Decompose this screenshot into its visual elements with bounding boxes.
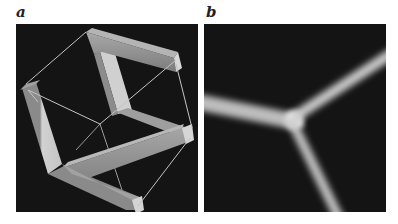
- bar-frame-illustration: [16, 24, 198, 212]
- panel-a-label: a: [16, 4, 26, 20]
- junction-node: [284, 110, 304, 130]
- panel-a-rendering: [16, 24, 198, 212]
- arm-lower: [294, 126, 340, 212]
- panel-b-junction-image: [204, 24, 386, 212]
- bar-left: [22, 82, 62, 174]
- arm-upper-right: [296, 52, 386, 116]
- junction-illustration: [204, 24, 386, 212]
- arm-left: [204, 102, 288, 120]
- junction-arms: [204, 52, 386, 212]
- panel-b-label: b: [206, 4, 217, 20]
